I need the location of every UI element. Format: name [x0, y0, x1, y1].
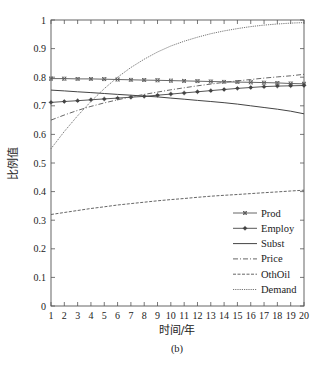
- x-tick-label: 18: [272, 310, 282, 321]
- x-tick-label: 20: [299, 310, 309, 321]
- x-tick-label: 12: [192, 310, 202, 321]
- x-tick-label: 4: [88, 310, 93, 321]
- x-tick-label: 16: [246, 310, 256, 321]
- x-tick-label: 14: [219, 310, 229, 321]
- legend-item-employ: Employ: [233, 223, 295, 234]
- line-chart: 00.10.20.30.40.50.60.70.80.91 1234567891…: [0, 0, 320, 369]
- y-tick-label: 0.7: [34, 100, 47, 111]
- y-tick-label: 0.6: [34, 129, 47, 140]
- figure-caption: (b): [171, 343, 184, 355]
- legend-item-price: Price: [233, 253, 283, 264]
- y-axis-title: 比例值: [6, 147, 20, 180]
- y-tick-label: 0.8: [34, 72, 47, 83]
- x-tick-label: 19: [286, 310, 296, 321]
- x-tick-label: 7: [128, 310, 133, 321]
- y-tick-label: 0.9: [34, 43, 47, 54]
- x-tick-label: 5: [102, 310, 107, 321]
- legend-label: Subst: [261, 238, 284, 249]
- legend-label: Prod: [261, 208, 282, 219]
- x-tick-label: 11: [179, 310, 189, 321]
- x-tick-label: 10: [166, 310, 176, 321]
- legend-label: Employ: [261, 223, 295, 234]
- legend-label: Demand: [261, 284, 297, 295]
- legend-item-subst: Subst: [233, 238, 284, 249]
- x-tick-label: 8: [142, 310, 147, 321]
- series-demand: [51, 23, 304, 149]
- y-tick-label: 0.1: [34, 272, 47, 283]
- legend-item-demand: Demand: [233, 284, 297, 295]
- y-tick-label: 1: [41, 15, 46, 26]
- x-tick-label: 1: [49, 310, 54, 321]
- x-tick-label: 15: [232, 310, 242, 321]
- series-employ: [49, 83, 307, 105]
- x-tick-label: 2: [62, 310, 67, 321]
- y-tick-label: 0.4: [34, 186, 47, 197]
- legend-item-othoil: OthOil: [233, 269, 290, 280]
- x-tick-label: 9: [155, 310, 160, 321]
- y-axis-ticks: 00.10.20.30.40.50.60.70.80.91: [34, 15, 305, 312]
- x-tick-label: 6: [115, 310, 120, 321]
- legend: ProdEmploySubstPriceOthOilDemand: [233, 208, 297, 296]
- y-tick-label: 0.2: [34, 243, 47, 254]
- legend-label: Price: [261, 253, 283, 264]
- y-tick-label: 0: [41, 301, 46, 312]
- legend-item-prod: Prod: [233, 208, 282, 219]
- y-tick-label: 0.5: [34, 158, 47, 169]
- x-axis-title: 时间/年: [159, 323, 196, 337]
- y-tick-label: 0.3: [34, 215, 47, 226]
- series-lines: [49, 23, 307, 215]
- x-tick-label: 13: [206, 310, 216, 321]
- x-tick-label: 3: [75, 310, 80, 321]
- legend-label: OthOil: [261, 269, 290, 280]
- x-tick-label: 17: [259, 310, 269, 321]
